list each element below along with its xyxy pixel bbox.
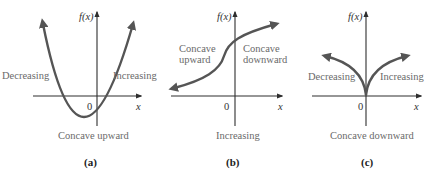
panel-a: f(x) x 0 Decreasing Increasing Concave u… [2,11,157,169]
origin-label: 0 [87,101,92,112]
right-label: Increasing [113,70,157,81]
caption: (c) [361,156,374,169]
caption: (a) [84,156,97,169]
y-axis-label: f(x) [79,11,94,23]
y-axis-label: f(x) [217,11,232,23]
origin-label: 0 [358,101,363,112]
bottom-label: Concave downward [330,130,414,141]
y-axis-label: f(x) [348,11,363,23]
panel-b: f(x) x 0 Concave upward Concave downward… [171,11,288,169]
left-label-line2: upward [179,54,211,65]
x-axis-label: x [135,101,141,112]
x-axis-label: x [413,101,419,112]
bottom-label: Increasing [216,130,260,141]
right-label-line2: downward [243,54,288,65]
panel-c: f(x) x 0 Decreasing Increasing Concave d… [308,11,424,169]
left-label: Decreasing [2,70,50,81]
right-label: Increasing [380,71,424,82]
right-label-line1: Concave [243,43,280,54]
origin-label: 0 [224,101,229,112]
x-axis-label: x [277,101,283,112]
left-label: Decreasing [308,71,356,82]
left-label-line1: Concave [179,43,216,54]
concavity-diagram: f(x) x 0 Decreasing Increasing Concave u… [0,0,425,182]
bottom-label: Concave upward [58,130,130,141]
caption: (b) [226,156,240,169]
